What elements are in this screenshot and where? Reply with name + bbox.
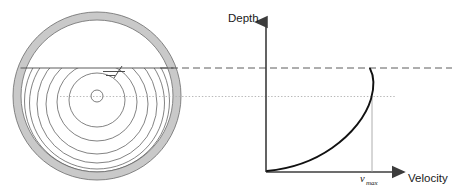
vmax-label-symbol: v: [360, 173, 365, 184]
pipe-cross-section: [13, 12, 452, 180]
figure-svg: Depth Velocity v max: [0, 0, 452, 194]
max-velocity-marker: [91, 90, 103, 102]
figure-root: Depth Velocity v max: [0, 0, 452, 194]
isovel-contour-group: [25, 30, 170, 172]
x-axis-label: Velocity: [408, 172, 448, 184]
isovel-contour: [69, 73, 125, 127]
velocity-profile-curve: [267, 69, 374, 172]
pipe-wall: [13, 12, 181, 180]
isovel-contour: [30, 37, 165, 169]
y-axis-label: Depth: [228, 12, 259, 24]
isovel-contour: [46, 54, 148, 154]
isovel-contour: [37, 45, 157, 163]
velocity-profile-chart: Depth Velocity v max: [228, 12, 448, 187]
vmax-label: v max: [360, 173, 379, 187]
vmax-label-subscript: max: [366, 179, 379, 187]
